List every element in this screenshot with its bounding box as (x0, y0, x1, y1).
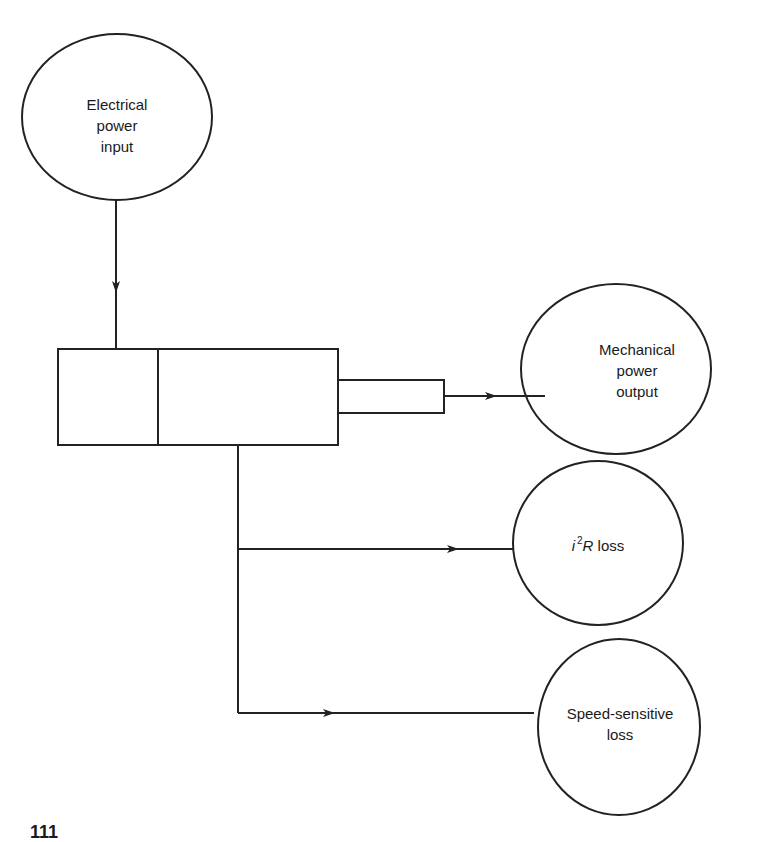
motor-shaft (338, 380, 444, 413)
input-label: Electrical power input (87, 94, 148, 157)
speed-loss-label: Speed-sensitive loss (567, 703, 674, 745)
figure-caption: 111 (30, 822, 58, 842)
motor-body (58, 349, 338, 445)
i2r-loss-label: i2R loss (572, 535, 625, 556)
mech-output-label: Mechanical power output (599, 339, 675, 402)
